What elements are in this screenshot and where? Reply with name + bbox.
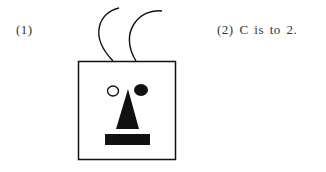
left-antenna [99,8,119,61]
right-antenna [129,11,162,61]
triangle-nose [116,89,139,129]
filled-circle-eye [134,84,148,96]
face-figure [0,0,326,172]
rectangle-mouth [105,134,150,145]
open-circle-eye [108,86,119,96]
